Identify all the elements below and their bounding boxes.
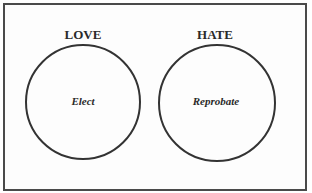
- diagram-canvas: LOVE Elect HATE Reprobate: [0, 0, 312, 193]
- heading-hate: HATE: [197, 27, 233, 42]
- label-reprobate: Reprobate: [192, 95, 240, 107]
- group-hate: HATE Reprobate: [159, 27, 275, 161]
- heading-love: LOVE: [65, 27, 102, 42]
- label-elect: Elect: [70, 95, 95, 107]
- group-love: LOVE Elect: [26, 27, 140, 159]
